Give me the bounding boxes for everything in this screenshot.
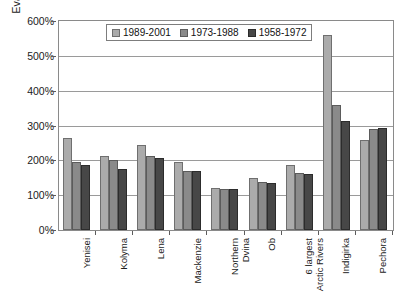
x-category-label: Lena: [156, 238, 167, 259]
legend-swatch-icon: [180, 29, 188, 37]
y-tick-label: 0%: [6, 224, 54, 236]
x-tick-mark: [169, 231, 170, 235]
x-tick-mark: [95, 231, 96, 235]
bar: [369, 129, 378, 230]
bar-group: [206, 20, 243, 230]
x-category-label: 6 largest Arctic Rivers: [304, 238, 325, 291]
x-tick-mark: [132, 231, 133, 235]
y-tick-label: 500%: [6, 50, 54, 62]
y-tick-mark: [51, 126, 56, 127]
y-tick-label: 100%: [6, 189, 54, 201]
bar: [220, 189, 229, 230]
bar: [258, 182, 267, 230]
bar: [100, 156, 109, 230]
bar-group: [318, 20, 355, 230]
x-tick-mark: [281, 231, 282, 235]
bar-group: [169, 20, 206, 230]
x-category-label: Northern Dvina: [230, 238, 251, 275]
bar: [183, 171, 192, 230]
bar: [63, 138, 72, 230]
x-tick-mark: [206, 231, 207, 235]
y-tick-label: 300%: [6, 120, 54, 132]
y-tick-mark: [51, 230, 56, 231]
bar: [304, 174, 313, 230]
legend-swatch-icon: [248, 29, 256, 37]
x-category-label: Yenisei: [82, 238, 93, 268]
bar: [211, 188, 220, 230]
legend-label: 1989-2001: [123, 27, 171, 38]
x-tick-mark: [355, 231, 356, 235]
y-tick-mark: [51, 195, 56, 196]
x-category-label: Pechora: [378, 238, 389, 273]
bar: [109, 160, 118, 230]
legend-item: 1973-1988: [180, 27, 239, 38]
bar: [360, 140, 369, 230]
y-tick-label: 400%: [6, 85, 54, 97]
bar: [249, 178, 258, 230]
bar: [378, 128, 387, 230]
bar-group: [244, 20, 281, 230]
x-category-label: Mackenzie: [193, 238, 204, 283]
bar: [192, 171, 201, 230]
bar: [323, 35, 332, 230]
bar: [137, 145, 146, 230]
x-axis-category-labels: YeniseiKolymaLenaMackenzieNorthern Dvina…: [58, 236, 394, 298]
y-axis-tick-labels: 600%500%400%300%200%100%0%: [0, 20, 54, 231]
bar-group: [355, 20, 392, 230]
x-category-label: Ob: [267, 238, 278, 251]
x-tick-mark: [244, 231, 245, 235]
x-category-label: Indigirka: [341, 238, 352, 274]
x-tick-mark: [318, 231, 319, 235]
y-tick-mark: [51, 160, 56, 161]
evaporation-ratio-bar-chart: Evaporation ratio 600%500%400%300%200%10…: [0, 0, 406, 300]
bar: [295, 173, 304, 230]
legend-label: 1973-1988: [191, 27, 239, 38]
x-tick-mark: [392, 231, 393, 235]
y-tick-mark: [51, 21, 56, 22]
bar: [332, 105, 341, 230]
bar: [81, 165, 90, 230]
y-tick-label: 200%: [6, 154, 54, 166]
legend-item: 1989-2001: [112, 27, 171, 38]
bar: [146, 156, 155, 230]
bar: [341, 121, 350, 230]
legend-item: 1958-1972: [248, 27, 307, 38]
x-category-label: Kolyma: [119, 238, 130, 270]
bar: [267, 183, 276, 230]
bar-group: [95, 20, 132, 230]
bar: [286, 165, 295, 230]
bars-container: [58, 20, 394, 230]
bar-group: [58, 20, 95, 230]
bar: [229, 189, 238, 230]
bar: [118, 169, 127, 230]
bar-group: [281, 20, 318, 230]
bar: [174, 162, 183, 230]
y-tick-label: 600%: [6, 15, 54, 27]
legend-label: 1958-1972: [259, 27, 307, 38]
y-tick-mark: [51, 56, 56, 57]
bar: [72, 162, 81, 230]
bar: [155, 158, 164, 230]
legend-swatch-icon: [112, 29, 120, 37]
legend: 1989-20011973-19881958-1972: [106, 24, 312, 41]
y-tick-mark: [51, 91, 56, 92]
bar-group: [132, 20, 169, 230]
